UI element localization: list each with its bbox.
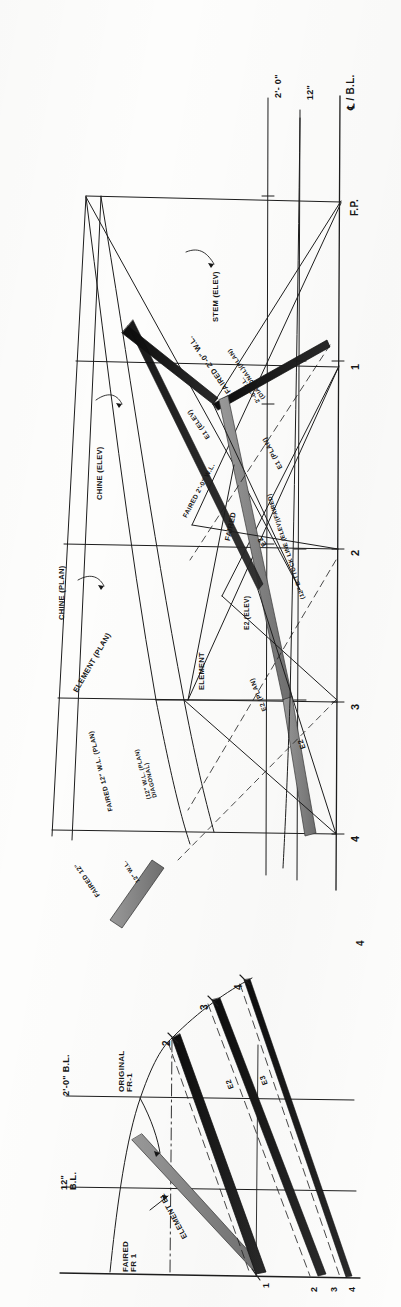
label-faired-fr1-line2: FR 1 — [130, 1241, 138, 1272]
station-line-2 — [64, 544, 338, 549]
label-bl-12in: 12" B.L. — [60, 1172, 79, 1190]
body-plan-station-label-3-top: 3 — [200, 1004, 211, 1010]
label-stem-elev: STEM (ELEV) — [212, 271, 220, 322]
body-plan-baseline — [60, 1273, 360, 1278]
stem-elev-line — [86, 197, 234, 465]
envelope-line-upper — [52, 196, 86, 836]
station-line-fp — [86, 196, 341, 202]
body-plan-bl-12in — [62, 1187, 356, 1191]
label-forward-perpendicular: F.P. — [350, 199, 361, 216]
label-original-fr1: ORIGINAL FR-1 — [118, 1050, 135, 1092]
station-label-3: 3 — [350, 704, 362, 710]
body-plan-station-label-4-top: 4 — [234, 984, 245, 990]
station-label-1: 1 — [350, 364, 362, 370]
faired-12in-lower-band — [110, 860, 164, 928]
station-line-4 — [52, 830, 336, 834]
body-plan-station-label-2-bottom: 2 — [310, 1287, 319, 1292]
label-chine-plan: CHINE (PLAN) — [58, 566, 66, 620]
label-waterline-12in: 12" — [306, 85, 315, 100]
body-plan-bl-2ft — [66, 1096, 354, 1100]
station-label-2: 2 — [350, 550, 362, 556]
construction-line-g — [184, 700, 336, 834]
body-plan-centerline — [170, 1040, 172, 1274]
e2-plan-line — [188, 366, 339, 700]
body-plan-station-label-2-top: 2 — [162, 1040, 173, 1046]
faired-12in-lower-band-group — [110, 860, 164, 928]
body-plan-view — [60, 975, 360, 1280]
label-original-fr1-line2: FR-1 — [126, 1050, 134, 1092]
upper-station-label-4-edge: 4 — [356, 940, 367, 946]
element-e1-band — [172, 1034, 266, 1274]
label-chine-elev: CHINE (ELEV) — [96, 446, 104, 500]
body-plan-station-label-4-bottom: 4 — [348, 1287, 357, 1292]
station-label-4: 4 — [350, 836, 362, 842]
body-plan-station-label-3-bottom: 3 — [330, 1287, 339, 1292]
dashed-guide-3 — [178, 700, 336, 860]
label-baseline-centerline: ℄ / B.L. — [346, 74, 357, 110]
body-plan-station-label-1-bottom: 1 — [262, 1283, 271, 1288]
faired-fr1-band — [132, 1134, 264, 1271]
label-bl-12in-line2: B.L. — [69, 1172, 78, 1190]
label-e2-elev: E2 (ELEV) — [244, 596, 251, 630]
axis-baseline-centerline — [336, 96, 340, 890]
label-waterline-2ft: 2'- 0" — [274, 74, 283, 98]
e3-dashed — [240, 984, 340, 1277]
label-faired-fr1: FAIRED FR 1 — [122, 1241, 139, 1272]
drawing-sheet: 2'- 0" 12" ℄ / B.L. F.P. 1 2 3 4 STEM (E… — [0, 0, 401, 1307]
element-e3-band — [244, 979, 352, 1277]
element-dark-band — [128, 320, 263, 590]
axis-waterline-2ft — [266, 98, 268, 875]
label-element-center: ELEMENT — [198, 652, 206, 690]
label-bl-2ft: 2'-0" B.L. — [62, 1054, 71, 1096]
chine-plan-curve — [86, 197, 190, 844]
